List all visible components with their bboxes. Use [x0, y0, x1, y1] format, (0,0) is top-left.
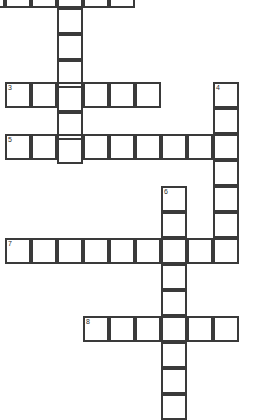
cell-number: 4	[216, 84, 220, 92]
grid-cell[interactable]	[57, 34, 83, 60]
grid-cell[interactable]	[161, 394, 187, 420]
grid-cell[interactable]	[135, 82, 161, 108]
cell-number: 6	[164, 188, 168, 196]
grid-cell[interactable]	[213, 108, 239, 134]
grid-cell-numbered[interactable]: 8	[83, 316, 109, 342]
grid-cell[interactable]	[109, 0, 135, 8]
grid-cell[interactable]	[83, 82, 109, 108]
grid-cell[interactable]	[161, 212, 187, 238]
grid-cell[interactable]	[57, 8, 83, 34]
grid-cell[interactable]	[187, 238, 213, 264]
grid-cell[interactable]	[109, 238, 135, 264]
grid-cell[interactable]	[135, 134, 161, 160]
grid-cell-numbered[interactable]: 5	[5, 134, 31, 160]
grid-cell-numbered[interactable]: 4	[213, 82, 239, 108]
grid-cell[interactable]	[161, 368, 187, 394]
grid-cell[interactable]	[213, 134, 239, 160]
grid-cell[interactable]	[31, 0, 57, 8]
grid-cell[interactable]	[31, 82, 57, 108]
grid-cell[interactable]	[83, 238, 109, 264]
cell-number: 5	[8, 136, 12, 144]
grid-cell[interactable]	[161, 316, 187, 342]
grid-cell[interactable]	[109, 134, 135, 160]
grid-cell[interactable]	[83, 0, 109, 8]
cell-number: 8	[86, 318, 90, 326]
cell-number: 3	[8, 84, 12, 92]
grid-cell[interactable]	[31, 238, 57, 264]
grid-cell[interactable]	[161, 264, 187, 290]
grid-cell[interactable]	[57, 238, 83, 264]
grid-cell[interactable]	[187, 134, 213, 160]
grid-cell-numbered[interactable]: 3	[5, 82, 31, 108]
grid-cell[interactable]	[57, 86, 83, 112]
grid-cell[interactable]	[161, 134, 187, 160]
grid-cell[interactable]	[161, 342, 187, 368]
grid-cell[interactable]	[213, 316, 239, 342]
grid-cell[interactable]	[161, 238, 187, 264]
grid-cell[interactable]	[161, 290, 187, 316]
grid-cell[interactable]	[31, 134, 57, 160]
grid-cell[interactable]	[83, 134, 109, 160]
grid-cell[interactable]	[109, 316, 135, 342]
grid-cell[interactable]	[5, 0, 31, 8]
grid-cell[interactable]	[187, 316, 213, 342]
grid-cell[interactable]	[135, 238, 161, 264]
grid-cell[interactable]	[57, 138, 83, 164]
cell-number: 7	[8, 240, 12, 248]
grid-cell-numbered[interactable]: 6	[161, 186, 187, 212]
grid-cell[interactable]	[135, 316, 161, 342]
grid-cell[interactable]	[213, 160, 239, 186]
grid-cell[interactable]	[213, 212, 239, 238]
grid-cell[interactable]	[109, 82, 135, 108]
grid-cell[interactable]	[213, 186, 239, 212]
grid-cell[interactable]	[213, 238, 239, 264]
grid-cell-numbered[interactable]: 2	[57, 0, 83, 8]
grid-cell-numbered[interactable]: 7	[5, 238, 31, 264]
